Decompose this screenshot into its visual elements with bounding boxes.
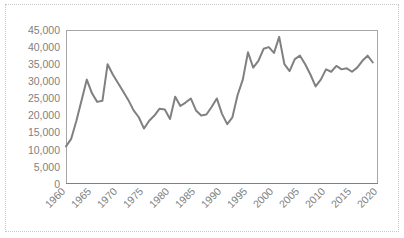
y-tick-label: 5,000 bbox=[34, 161, 60, 173]
y-tick-label: 40,000 bbox=[28, 41, 60, 53]
line-chart: 05,00010,00015,00020,00025,00030,00035,0… bbox=[0, 0, 404, 238]
x-axis-tick-labels: 1960196519701975198019851990199520002005… bbox=[42, 185, 379, 210]
x-tick-label: 1990 bbox=[198, 185, 223, 210]
y-tick-label: 30,000 bbox=[28, 75, 60, 87]
x-tick-label: 1965 bbox=[68, 185, 93, 210]
plot-area-border bbox=[67, 31, 378, 184]
y-tick-label: 20,000 bbox=[28, 109, 60, 121]
x-tick-label: 1995 bbox=[224, 185, 249, 210]
x-tick-label: 1960 bbox=[42, 185, 67, 210]
data-series-line bbox=[66, 37, 373, 147]
x-tick-label: 2005 bbox=[276, 185, 301, 210]
x-tick-label: 2000 bbox=[250, 185, 275, 210]
y-tick-label: 35,000 bbox=[28, 58, 60, 70]
y-tick-label: 45,000 bbox=[28, 24, 60, 36]
x-tick-label: 1980 bbox=[146, 185, 171, 210]
x-tick-label: 2020 bbox=[354, 185, 379, 210]
y-axis-tick-labels: 05,00010,00015,00020,00025,00030,00035,0… bbox=[28, 24, 60, 190]
x-tick-label: 2015 bbox=[328, 185, 353, 210]
y-tick-label: 10,000 bbox=[28, 144, 60, 156]
x-tick-label: 1970 bbox=[94, 185, 119, 210]
y-tick-label: 15,000 bbox=[28, 126, 60, 138]
y-tick-label: 25,000 bbox=[28, 92, 60, 104]
x-tick-label: 2010 bbox=[302, 185, 327, 210]
x-tick-label: 1975 bbox=[120, 185, 145, 210]
chart-figure: 05,00010,00015,00020,00025,00030,00035,0… bbox=[0, 0, 404, 238]
x-tick-label: 1985 bbox=[172, 185, 197, 210]
